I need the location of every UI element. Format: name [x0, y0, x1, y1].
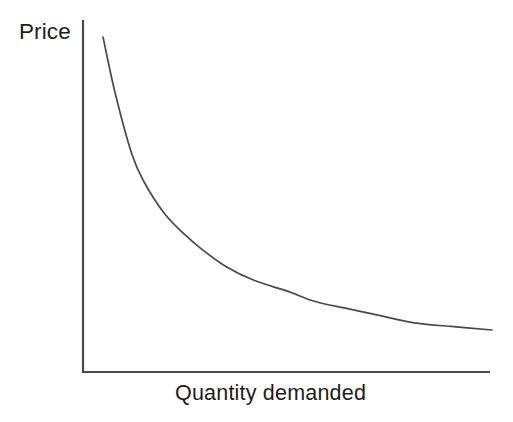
demand-curve-figure: Price Quantity demanded [0, 0, 513, 422]
x-axis-label: Quantity demanded [175, 383, 366, 405]
y-axis-label: Price [19, 21, 71, 44]
demand-curve-line [103, 37, 492, 330]
chart-plot-area [0, 0, 513, 422]
